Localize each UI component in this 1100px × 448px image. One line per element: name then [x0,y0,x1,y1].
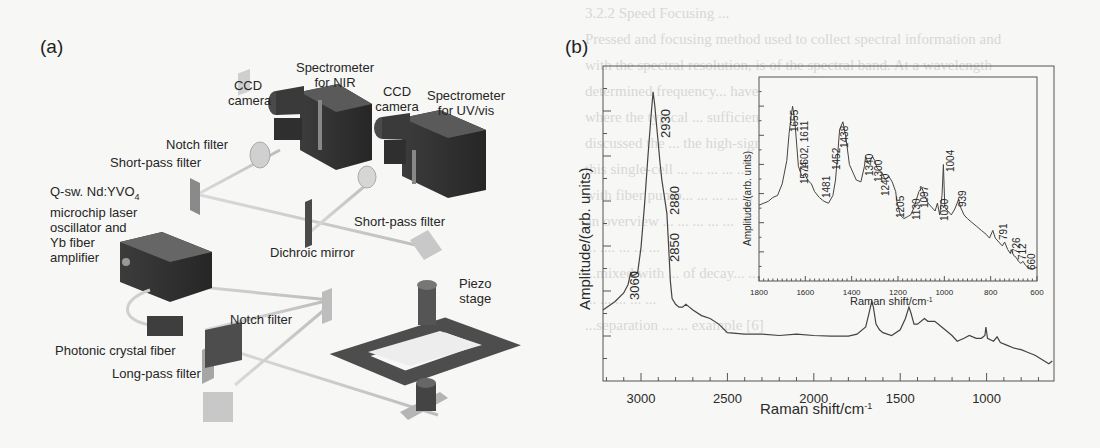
main-y-ticks [603,89,611,359]
x-tick-label: 2500 [713,391,742,406]
peak-label: 1030 [939,198,950,221]
peak-label: 1481 [821,175,832,198]
x-tick-label: 1000 [935,288,953,297]
peak-label: 2930 [658,109,673,138]
x-tick-label: 1000 [972,391,1001,406]
peak-label: 939 [957,190,968,207]
peak-label: 1240 [880,173,891,196]
x-tick-label: 1500 [886,391,915,406]
x-tick-label: 800 [984,288,998,297]
inset-y-axis-label: Amplitude/(arb. units) [742,151,753,246]
x-tick-label: 1800 [750,288,768,297]
x-tick-label: 3000 [627,391,656,406]
peak-label: 1574 [799,161,810,184]
inset-x-axis-label: Raman shift/cm-1 [850,295,933,307]
peak-label: 1452 [831,147,842,170]
main-x-axis-label: Raman shift/cm-1 [760,400,872,417]
peak-label: 1205 [895,195,906,218]
main-y-axis-label: Amplitude/(arb. units) [576,167,593,310]
main-peak-labels: 3060293028802850 [627,109,682,300]
peak-label: 660 [1026,253,1037,270]
x-tick-label: 600 [1030,288,1044,297]
peak-label: 3060 [627,271,642,300]
peak-label: 2850 [667,233,682,262]
peak-label: 2880 [667,186,682,215]
peak-label: 791 [998,223,1009,240]
peak-label: 1438 [839,125,850,148]
raman-spectrum-chart: 30002500200015001000 3060293028802850 Am… [0,0,1100,448]
peak-label: 1097 [919,185,930,208]
peak-label: 1004 [945,149,956,172]
x-tick-label: 1600 [796,288,814,297]
